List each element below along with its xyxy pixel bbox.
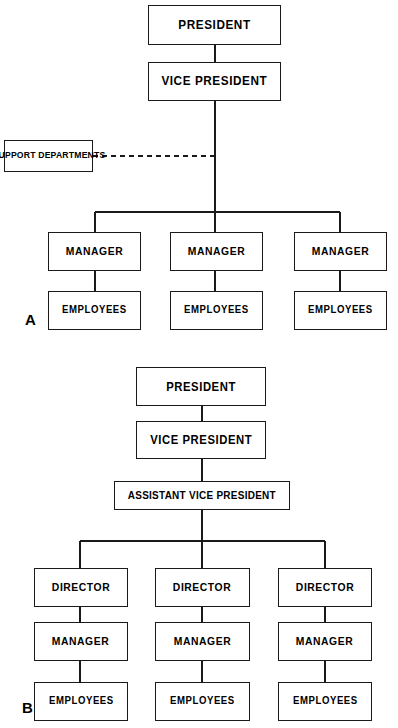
node-b-vice-president-label: VICE PRESIDENT bbox=[150, 434, 252, 446]
org-chart-page: PRESIDENT VICE PRESIDENT SUPPORT DEPARTM… bbox=[0, 0, 398, 728]
node-b-director-2[interactable]: DIRECTOR bbox=[155, 568, 250, 607]
node-a-employees-2-label: EMPLOYEES bbox=[184, 305, 249, 315]
node-a-manager-3-label: MANAGER bbox=[312, 246, 369, 257]
node-a-employees-1[interactable]: EMPLOYEES bbox=[48, 291, 141, 330]
node-a-employees-3-label: EMPLOYEES bbox=[308, 305, 373, 315]
node-b-president-label: PRESIDENT bbox=[166, 381, 236, 393]
node-b-manager-1-label: MANAGER bbox=[52, 636, 109, 647]
node-a-manager-2-label: MANAGER bbox=[188, 246, 245, 257]
node-b-manager-3-label: MANAGER bbox=[296, 636, 353, 647]
connector-lines bbox=[0, 0, 398, 728]
node-b-employees-2-label: EMPLOYEES bbox=[170, 696, 235, 706]
node-a-employees-2[interactable]: EMPLOYEES bbox=[170, 291, 263, 330]
node-a-employees-1-label: EMPLOYEES bbox=[62, 305, 127, 315]
node-a-manager-2[interactable]: MANAGER bbox=[170, 232, 263, 271]
node-b-director-3[interactable]: DIRECTOR bbox=[278, 568, 372, 607]
node-a-vice-president[interactable]: VICE PRESIDENT bbox=[148, 62, 281, 101]
node-b-director-3-label: DIRECTOR bbox=[296, 582, 354, 593]
node-a-manager-1-label: MANAGER bbox=[66, 246, 123, 257]
node-b-manager-2[interactable]: MANAGER bbox=[155, 622, 250, 661]
node-a-president-label: PRESIDENT bbox=[178, 19, 250, 32]
node-b-vice-president[interactable]: VICE PRESIDENT bbox=[136, 421, 266, 459]
node-b-employees-1-label: EMPLOYEES bbox=[49, 696, 114, 706]
node-b-director-1[interactable]: DIRECTOR bbox=[34, 568, 128, 607]
node-a-manager-1[interactable]: MANAGER bbox=[48, 232, 141, 271]
node-b-director-2-label: DIRECTOR bbox=[173, 582, 231, 593]
node-a-vice-president-label: VICE PRESIDENT bbox=[162, 75, 268, 88]
chart-tag-b: B bbox=[22, 700, 33, 715]
node-b-manager-3[interactable]: MANAGER bbox=[278, 622, 372, 661]
node-a-employees-3[interactable]: EMPLOYEES bbox=[294, 291, 387, 330]
node-b-employees-1[interactable]: EMPLOYEES bbox=[34, 682, 128, 721]
node-b-assistant-vice-president-label: ASSISTANT VICE PRESIDENT bbox=[128, 490, 276, 501]
node-b-manager-2-label: MANAGER bbox=[174, 636, 231, 647]
node-b-employees-2[interactable]: EMPLOYEES bbox=[155, 682, 250, 721]
node-a-support-departments[interactable]: SUPPORT DEPARTMENTS bbox=[4, 140, 93, 172]
node-a-support-departments-label: SUPPORT DEPARTMENTS bbox=[0, 151, 105, 160]
chart-tag-a: A bbox=[25, 312, 36, 327]
node-a-manager-3[interactable]: MANAGER bbox=[294, 232, 387, 271]
node-b-director-1-label: DIRECTOR bbox=[52, 582, 110, 593]
node-b-employees-3[interactable]: EMPLOYEES bbox=[278, 682, 372, 721]
node-b-employees-3-label: EMPLOYEES bbox=[293, 696, 358, 706]
node-b-president[interactable]: PRESIDENT bbox=[136, 367, 266, 406]
node-b-assistant-vice-president[interactable]: ASSISTANT VICE PRESIDENT bbox=[114, 481, 290, 510]
node-b-manager-1[interactable]: MANAGER bbox=[34, 622, 128, 661]
node-a-president[interactable]: PRESIDENT bbox=[148, 5, 281, 45]
